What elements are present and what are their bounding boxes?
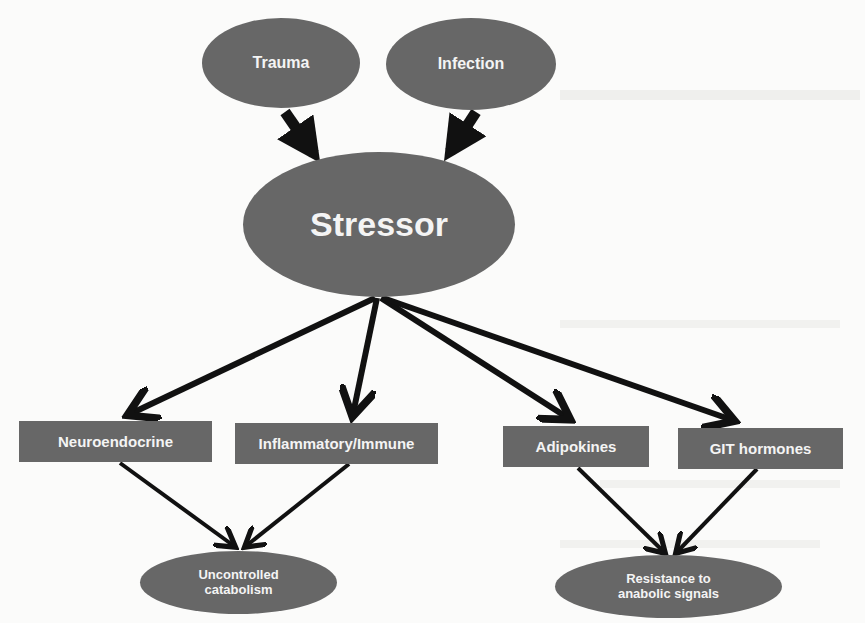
arrow-neuroendocrine-catabolism	[120, 463, 234, 546]
arrow-stressor-neuroendocrine	[130, 298, 375, 414]
arrow-infection-stressor	[450, 112, 476, 152]
node-uncontrolled-catabolism: Uncontrolled catabolism	[140, 551, 337, 614]
node-resistance-anabolic: Resistance to anabolic signals	[555, 555, 782, 618]
node-resistance-line2: anabolic signals	[618, 587, 719, 602]
arrow-adipokines-resistance	[578, 468, 664, 552]
node-adipokines-label: Adipokines	[536, 438, 617, 455]
node-git-label: GIT hormones	[710, 440, 812, 457]
node-infection-label: Infection	[438, 55, 505, 73]
arrow-stressor-inflammatory	[353, 298, 377, 414]
arrow-stressor-adipokines	[381, 298, 568, 418]
node-stressor: Stressor	[243, 152, 515, 297]
arrow-git-resistance	[677, 469, 757, 552]
arrow-stressor-git	[383, 298, 732, 420]
arrow-trauma-stressor	[285, 112, 314, 154]
node-git-hormones: GIT hormones	[678, 428, 843, 469]
node-neuroendocrine: Neuroendocrine	[19, 421, 212, 462]
node-inflammatory-label: Inflammatory/Immune	[259, 435, 415, 452]
node-catabolism-line2: catabolism	[205, 583, 273, 598]
node-adipokines: Adipokines	[503, 426, 649, 467]
node-infection: Infection	[386, 18, 556, 110]
node-inflammatory-immune: Inflammatory/Immune	[235, 423, 438, 464]
node-neuroendocrine-label: Neuroendocrine	[58, 433, 173, 450]
node-catabolism-line1: Uncontrolled	[198, 568, 278, 583]
node-trauma-label: Trauma	[253, 54, 310, 72]
node-trauma: Trauma	[202, 18, 360, 108]
node-stressor-label: Stressor	[310, 205, 448, 244]
node-resistance-line1: Resistance to	[626, 572, 711, 587]
arrow-inflammatory-catabolism	[246, 464, 349, 546]
